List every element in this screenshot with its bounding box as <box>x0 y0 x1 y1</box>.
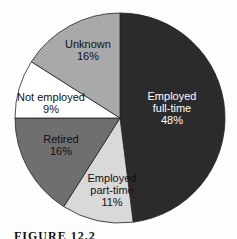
pie-chart: Employedfull-time48%Employedpart-time11%… <box>0 0 237 239</box>
figure-caption: FIGURE 12.2 <box>14 229 96 239</box>
